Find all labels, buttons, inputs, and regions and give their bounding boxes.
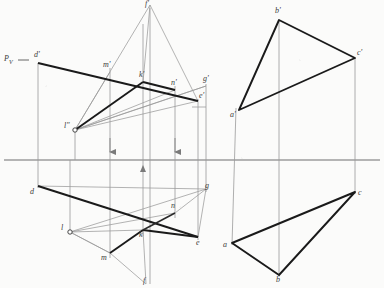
edge-n-to-g-aux [175,189,206,213]
label-f: f [143,277,145,285]
label-c-prime: c' [357,49,362,57]
label-n: n [171,202,175,210]
left-point-markers [68,128,77,234]
label-d-prime: d' [34,51,40,59]
marker-l [68,230,72,234]
label-k: k [139,231,143,239]
label-m-prime: m' [103,61,111,69]
ray-m-to-f [110,253,146,284]
drawing-canvas: PV d' f' m' k' n' g' e' l" d l m k n g e… [0,0,384,288]
label-l: l [61,224,63,232]
label-b-prime: b' [275,7,281,15]
label-l-double-prime: l" [64,122,70,130]
left-construction-rays [38,5,206,284]
marker-l-double-prime [73,128,77,132]
label-Pv: PV [4,55,13,65]
ray-ldp-to-mprime [75,72,110,130]
label-d: d [30,188,34,196]
label-g-prime: g' [203,75,209,83]
label-f-prime: f' [145,0,149,8]
right-heavy-triangles [232,20,355,275]
triangle-abc-front-view [239,20,355,110]
label-k-prime: k' [139,71,144,79]
edge-d-to-g [38,186,206,189]
label-b: b [276,276,280,284]
vline-a [232,108,236,245]
label-c: c [358,189,362,197]
label-e-prime: e' [199,92,204,100]
triangle-abc-top-view [232,192,355,275]
right-projection-lines [232,20,355,277]
ray-l-to-n [70,213,175,232]
label-m: m [101,254,107,262]
label-a: a [223,241,227,249]
label-n-prime: n' [171,79,177,87]
arrow-up-1 [140,165,146,172]
geometry-svg [0,0,384,288]
ray-l-to-g [70,189,206,232]
label-a-prime: a' [230,111,236,119]
left-projection-lines [38,8,206,284]
edge-dprime-lower-aux [75,86,206,130]
label-g: g [205,182,209,190]
heavy-kprime-nprime [75,82,143,130]
edge-m-aux-left [70,232,110,253]
label-e: e [196,239,200,247]
direction-arrows [110,138,175,172]
edge-g-to-e [198,189,206,237]
